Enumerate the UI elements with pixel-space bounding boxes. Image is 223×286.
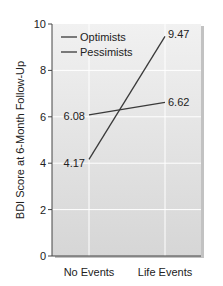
label-pessimists-life-events: 6.62 xyxy=(168,96,189,108)
y-tick-2: 2 xyxy=(40,204,46,216)
x-tick-life-events: Life Events xyxy=(138,266,193,278)
legend-pessimists-label: Pessimists xyxy=(80,46,133,58)
y-tick-6: 6 xyxy=(40,111,46,123)
label-optimists-life-events: 9.47 xyxy=(168,28,189,40)
y-tick-10: 10 xyxy=(34,18,46,30)
x-tick-no-events: No Events xyxy=(64,266,115,278)
y-axis-label: BDI Score at 6-Month Follow-Up xyxy=(14,61,26,219)
line-chart: 10 8 6 4 2 0 BDI Score at 6-Month Follow… xyxy=(0,0,223,286)
legend-optimists-label: Optimists xyxy=(80,31,126,43)
y-tick-4: 4 xyxy=(40,157,46,169)
y-tick-8: 8 xyxy=(40,64,46,76)
label-optimists-no-events: 4.17 xyxy=(64,157,85,169)
label-pessimists-no-events: 6.08 xyxy=(64,110,85,122)
plot-area xyxy=(52,24,201,256)
y-tick-0: 0 xyxy=(40,250,46,262)
